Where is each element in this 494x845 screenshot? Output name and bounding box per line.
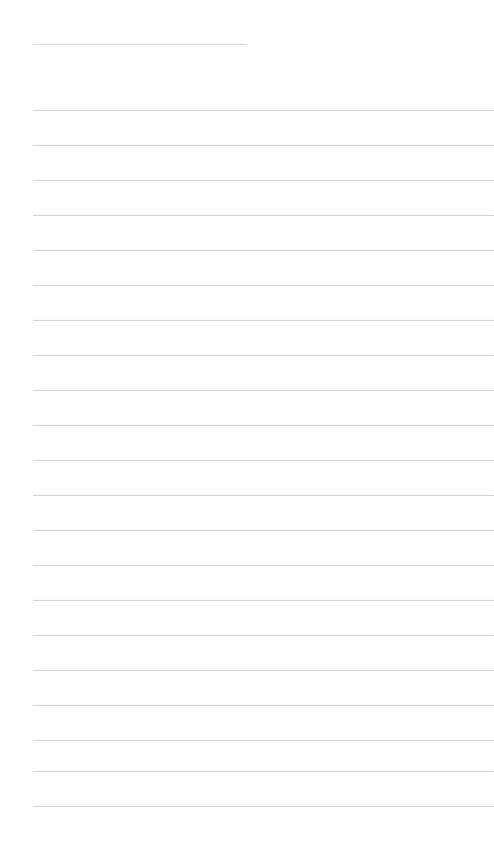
body-write-area[interactable]: [33, 84, 494, 110]
body-write-area[interactable]: [33, 119, 494, 145]
body-write-area[interactable]: [33, 399, 494, 425]
body-rule: [33, 355, 494, 356]
body-write-area[interactable]: [33, 434, 494, 460]
body-rule: [33, 180, 494, 181]
body-write-area[interactable]: [33, 714, 494, 740]
body-rule: [33, 460, 494, 461]
body-rule: [33, 250, 494, 251]
body-write-area[interactable]: [33, 154, 494, 180]
body-rule: [33, 285, 494, 286]
body-write-area[interactable]: [33, 259, 494, 285]
body-write-area[interactable]: [33, 469, 494, 495]
lined-page: [0, 0, 494, 845]
body-write-area[interactable]: [33, 539, 494, 565]
body-rule: [33, 806, 494, 807]
body-rule: [33, 215, 494, 216]
body-rule: [33, 390, 494, 391]
body-rule: [33, 565, 494, 566]
body-write-area[interactable]: [33, 644, 494, 670]
body-write-area[interactable]: [33, 574, 494, 600]
body-rule: [33, 530, 494, 531]
body-rule: [33, 600, 494, 601]
body-rule: [33, 705, 494, 706]
body-write-area[interactable]: [33, 329, 494, 355]
body-write-area[interactable]: [33, 294, 494, 320]
body-rule: [33, 110, 494, 111]
body-rule: [33, 670, 494, 671]
title-write-area[interactable]: [33, 18, 246, 44]
body-write-area[interactable]: [33, 189, 494, 215]
body-rule: [33, 635, 494, 636]
body-write-area[interactable]: [33, 745, 494, 771]
body-write-area[interactable]: [33, 224, 494, 250]
body-write-area[interactable]: [33, 609, 494, 635]
body-rule: [33, 425, 494, 426]
body-write-area[interactable]: [33, 504, 494, 530]
body-rule: [33, 145, 494, 146]
title-rule: [33, 44, 246, 45]
body-rule: [33, 771, 494, 772]
body-rule: [33, 740, 494, 741]
body-write-area[interactable]: [33, 364, 494, 390]
body-rule: [33, 495, 494, 496]
body-write-area[interactable]: [33, 679, 494, 705]
body-write-area[interactable]: [33, 780, 494, 806]
body-rule: [33, 320, 494, 321]
